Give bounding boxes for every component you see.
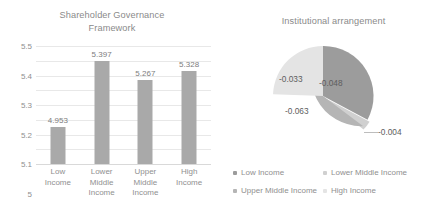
pie-slice-high-income bbox=[273, 46, 323, 96]
bar-chart-title-line-1: Shareholder Governance bbox=[60, 10, 165, 20]
pie-legend-label: Low Income bbox=[241, 168, 284, 177]
pie-legend-item[interactable]: High Income bbox=[323, 186, 438, 195]
pie-legend-label: High Income bbox=[331, 186, 376, 195]
bar-column: 5.267 bbox=[128, 46, 162, 164]
pie-chart-title: Institutional arrangement bbox=[241, 16, 426, 26]
pie-label-upper-middle-income: -0.063 bbox=[285, 106, 309, 116]
pie-label-high-income: -0.033 bbox=[279, 74, 303, 84]
pie-legend-swatch bbox=[233, 171, 237, 175]
y-axis-tick-label: 5 bbox=[28, 189, 32, 198]
bar-chart-title: Shareholder Governance Framework bbox=[32, 9, 192, 35]
bar bbox=[182, 71, 197, 164]
bar-chart-panel: Shareholder Governance Framework 5.55.45… bbox=[0, 0, 221, 217]
y-axis-tick-label: 5.1 bbox=[21, 160, 32, 169]
bar-column: 5.328 bbox=[172, 46, 206, 164]
y-axis-tick-label: 5.3 bbox=[21, 101, 32, 110]
bar bbox=[94, 61, 109, 164]
bar-chart-plot-area: 5.55.45.35.25.154.94.84.7 4.9535.3975.26… bbox=[36, 46, 211, 164]
bar-value-label: 5.267 bbox=[135, 69, 155, 78]
bar bbox=[50, 127, 65, 164]
bar-category-label: LowerMiddleIncome bbox=[83, 167, 121, 199]
pie-legend-item[interactable]: Upper Middle Income bbox=[233, 186, 319, 195]
chart-figure: Shareholder Governance Framework 5.55.45… bbox=[0, 0, 442, 217]
pie-legend-swatch bbox=[323, 189, 327, 193]
pie-svg bbox=[271, 44, 375, 148]
pie-label-lower-middle-income: -0.004 bbox=[378, 127, 402, 137]
pie-legend-label: Lower Middle Income bbox=[331, 168, 407, 177]
pie-legend-swatch bbox=[323, 171, 327, 175]
bar-chart-title-line-2: Framework bbox=[89, 23, 136, 33]
pie-legend-item[interactable]: Low Income bbox=[233, 168, 319, 177]
bar-category-label: UpperMiddleIncome bbox=[126, 167, 164, 199]
pie-legend-item[interactable]: Lower Middle Income bbox=[323, 168, 438, 177]
bar-chart-axis-line bbox=[36, 164, 211, 165]
pie-legend-label: Upper Middle Income bbox=[241, 186, 317, 195]
bar-value-label: 4.953 bbox=[48, 116, 68, 125]
bar-category-label: LowIncome bbox=[39, 167, 77, 188]
bar-column: 5.397 bbox=[85, 46, 119, 164]
pie-label-low-income: -0.048 bbox=[319, 78, 343, 88]
pie-chart-graphic: -0.048 -0.033 -0.063 -0.004 bbox=[271, 44, 375, 148]
bar-value-label: 5.397 bbox=[92, 50, 112, 59]
pie-chart-legend: Low IncomeLower Middle IncomeUpper Middl… bbox=[233, 168, 438, 195]
bar bbox=[138, 80, 153, 164]
bar-value-label: 5.328 bbox=[179, 60, 199, 69]
y-axis-tick-label: 5.2 bbox=[21, 130, 32, 139]
pie-legend-swatch bbox=[233, 189, 237, 193]
y-axis-tick-label: 5.5 bbox=[21, 42, 32, 51]
bar-chart-category-labels: LowIncomeLowerMiddleIncomeUpperMiddleInc… bbox=[36, 167, 211, 207]
bar-category-label: HighIncome bbox=[170, 167, 208, 188]
pie-chart-panel: Institutional arrangement -0.048 -0.033 … bbox=[221, 0, 442, 217]
y-axis-tick-label: 5.4 bbox=[21, 71, 32, 80]
bar-chart-bars: 4.9535.3975.2675.328 bbox=[36, 46, 211, 164]
pie-leader-line-lower-middle-income bbox=[364, 132, 378, 133]
bar-column: 4.953 bbox=[41, 46, 75, 164]
